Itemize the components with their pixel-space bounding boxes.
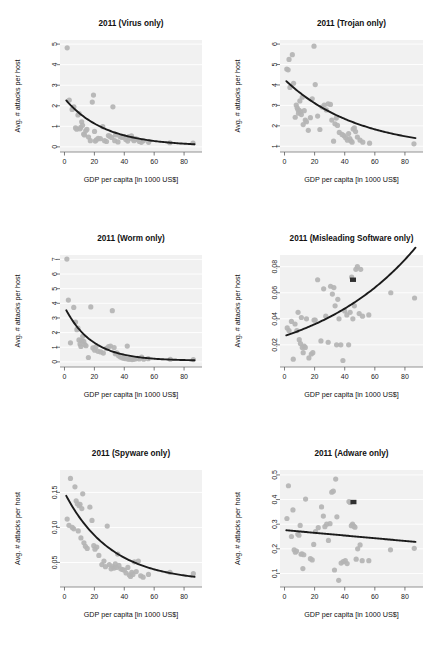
data-point: [302, 108, 307, 113]
y-tick-label: 2: [51, 331, 58, 335]
data-point: [298, 523, 303, 528]
y-tick-label: 0.3: [271, 519, 278, 529]
data-point: [357, 542, 362, 547]
x-tick-label: 80: [401, 593, 409, 600]
data-point: [360, 140, 365, 145]
x-tick-label: 80: [401, 373, 409, 380]
data-point: [301, 552, 306, 557]
x-tick-label: 40: [120, 593, 128, 600]
data-point: [311, 542, 316, 547]
data-point: [292, 321, 297, 326]
chart-svg-virus: 2011 (Virus only)020406080012345GDP per …: [0, 0, 220, 215]
data-point: [315, 277, 320, 282]
panel-title-adware: 2011 (Adware only): [314, 449, 388, 458]
data-point: [340, 358, 345, 363]
data-point: [388, 290, 393, 295]
y-tick-label: 0.1: [271, 568, 278, 578]
data-point: [65, 45, 70, 50]
data-point: [91, 92, 96, 97]
data-point: [105, 523, 110, 528]
x-tick-label: 20: [90, 373, 98, 380]
chart-svg-trojan: 2011 (Trojan only)020406080123456GDP per…: [220, 0, 441, 215]
data-point: [336, 578, 341, 583]
y-axis-title: Avg. # attacks per host: [13, 275, 22, 348]
x-tick-label: 40: [341, 593, 349, 600]
panel-title-trojan: 2011 (Trojan only): [317, 19, 386, 28]
data-point: [358, 267, 363, 272]
y-tick-label: 0.15: [51, 486, 58, 500]
data-point: [313, 82, 318, 87]
data-point: [86, 355, 91, 360]
x-tick-label: 40: [341, 158, 349, 165]
data-point: [88, 304, 93, 309]
data-point: [316, 525, 321, 530]
panel-title-worm: 2011 (Worm only): [97, 234, 165, 243]
x-tick-label: 60: [371, 158, 379, 165]
x-axis-title: GDP per capita [in 1000 US$]: [304, 390, 399, 399]
data-point: [134, 569, 139, 574]
x-tick-label: 20: [311, 373, 319, 380]
x-tick-label: 60: [150, 158, 158, 165]
data-point: [291, 357, 296, 362]
data-point: [72, 484, 77, 489]
x-tick-label: 20: [311, 593, 319, 600]
data-point: [412, 295, 417, 300]
data-point: [289, 534, 294, 539]
data-point: [336, 316, 341, 321]
panel-title-misleading-software: 2011 (Misleading Software only): [290, 234, 414, 243]
data-point: [68, 340, 73, 345]
x-tick-label: 80: [180, 593, 188, 600]
y-tick-label: 1: [51, 124, 58, 128]
plot-background: [60, 255, 202, 367]
data-point: [90, 99, 95, 104]
data-point: [319, 504, 324, 509]
data-point: [350, 140, 355, 145]
data-point: [345, 561, 350, 566]
x-tick-label: 40: [341, 373, 349, 380]
data-point: [104, 139, 109, 144]
y-tick-label: 4: [271, 83, 278, 87]
data-point: [64, 256, 69, 261]
plot-background: [60, 470, 202, 587]
data-point: [311, 44, 316, 49]
data-point: [352, 525, 357, 530]
data-point: [326, 340, 331, 345]
data-point: [286, 328, 291, 333]
data-point: [310, 557, 315, 562]
x-tick-label: 60: [371, 593, 379, 600]
chart-svg-worm: 2011 (Worm only)02040608001234567GDP per…: [0, 215, 220, 430]
data-point: [350, 316, 355, 321]
x-axis-title: GDP per capita [in 1000 US$]: [84, 390, 179, 399]
data-point: [286, 67, 291, 72]
y-tick-label: 0.04: [271, 312, 278, 326]
x-axis-title: GDP per capita [in 1000 US$]: [304, 175, 399, 184]
data-point: [286, 57, 291, 62]
y-tick-label: 0.5: [271, 470, 278, 480]
chart-panel-trojan: 2011 (Trojan only)020406080123456GDP per…: [220, 0, 441, 215]
data-point: [79, 506, 84, 511]
x-tick-label: 0: [283, 158, 287, 165]
x-tick-label: 20: [90, 593, 98, 600]
y-tick-label: 5: [51, 287, 58, 291]
data-point: [317, 127, 322, 132]
data-point: [294, 548, 299, 553]
y-tick-label: 6: [271, 42, 278, 46]
y-tick-label: 0.10: [51, 521, 58, 535]
data-point: [318, 338, 323, 343]
y-tick-label: 5: [51, 42, 58, 46]
data-point: [146, 572, 151, 577]
data-point: [110, 308, 115, 313]
x-tick-label: 60: [150, 593, 158, 600]
y-tick-label: 0: [51, 145, 58, 149]
y-tick-label: 2: [271, 124, 278, 128]
data-point: [306, 128, 311, 133]
highlighted-data-point: [350, 278, 356, 282]
y-tick-label: 0.05: [51, 556, 58, 570]
data-point: [334, 514, 339, 519]
data-point: [101, 350, 106, 355]
data-point: [360, 314, 365, 319]
data-point: [71, 305, 76, 310]
data-point: [330, 291, 335, 296]
data-point: [412, 546, 417, 551]
panel-title-spyware: 2011 (Spyware only): [92, 449, 171, 458]
